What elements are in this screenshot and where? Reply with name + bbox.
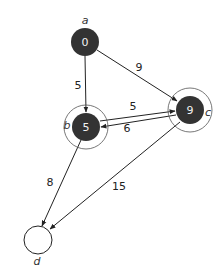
node-c: 9 c bbox=[168, 88, 212, 132]
edge-b-c bbox=[100, 111, 175, 121]
edge-a-c bbox=[97, 50, 177, 101]
graph-diagram: 5 9 5 6 8 15 0 a 5 b 9 c d bbox=[0, 0, 224, 273]
edge-a-b bbox=[85, 56, 86, 112]
node-value: 0 bbox=[82, 36, 89, 49]
node-name: b bbox=[64, 119, 71, 132]
node-circle bbox=[24, 226, 52, 254]
edge-label-a-c: 9 bbox=[136, 61, 143, 74]
edge-label-a-b: 5 bbox=[75, 79, 82, 92]
node-name: a bbox=[82, 14, 89, 27]
node-value: 5 bbox=[83, 121, 90, 134]
edges bbox=[42, 50, 180, 229]
node-d: d bbox=[24, 226, 52, 268]
node-value: 9 bbox=[187, 104, 194, 117]
edge-c-d bbox=[50, 122, 180, 229]
node-name: c bbox=[205, 106, 211, 119]
edge-label-b-c: 5 bbox=[130, 100, 137, 113]
edge-c-b bbox=[101, 115, 176, 127]
node-name: d bbox=[34, 255, 42, 268]
edge-label-c-b: 6 bbox=[124, 122, 131, 135]
node-a: 0 a bbox=[71, 14, 99, 57]
edge-label-c-d: 15 bbox=[112, 180, 126, 193]
edge-label-b-d: 8 bbox=[47, 176, 54, 189]
